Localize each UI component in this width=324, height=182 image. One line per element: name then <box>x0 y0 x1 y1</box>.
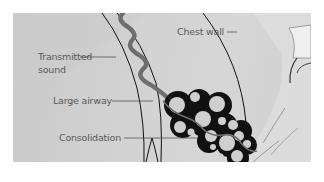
label-consolidation: Consolidation <box>59 132 121 144</box>
airway-bifurcation <box>146 138 158 162</box>
diagram-graphics <box>13 13 311 162</box>
chest-consolidation-diagram: Chest wall Transmitted sound Large airwa… <box>13 13 311 162</box>
label-sound: sound <box>38 64 66 76</box>
label-large-airway: Large airway <box>53 95 112 107</box>
label-transmitted: Transmitted <box>38 51 92 63</box>
label-chest-wall: Chest wall <box>177 26 224 38</box>
